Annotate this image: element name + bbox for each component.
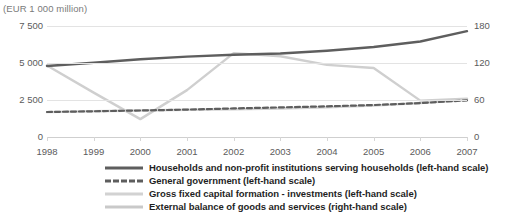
plot-area bbox=[47, 26, 467, 137]
legend-label: General government (left-hand scale) bbox=[149, 175, 315, 186]
legend-label: Households and non-profit institutions s… bbox=[149, 162, 488, 173]
legend-item[interactable]: Gross fixed capital formation - investme… bbox=[105, 187, 517, 200]
x-axis-tick bbox=[280, 137, 281, 141]
y-axis-left-tick: 2 500 bbox=[19, 94, 43, 105]
x-axis-label: 2005 bbox=[363, 146, 384, 157]
series-line-households bbox=[47, 31, 467, 66]
chart-legend: Households and non-profit institutions s… bbox=[105, 161, 517, 213]
legend-item[interactable]: External balance of goods and services (… bbox=[105, 200, 517, 213]
y-axis-left-tick: 5 000 bbox=[19, 57, 43, 68]
x-axis-tick bbox=[94, 137, 95, 141]
gridline bbox=[47, 63, 467, 64]
gridline bbox=[47, 137, 467, 138]
legend-item[interactable]: General government (left-hand scale) bbox=[105, 174, 517, 187]
figure-subtitle: (EUR 1 000 million) bbox=[3, 3, 87, 14]
gridline bbox=[47, 100, 467, 101]
y-axis-left-tick: 0 bbox=[38, 131, 43, 142]
series-layer bbox=[47, 26, 467, 137]
legend-label: External balance of goods and services (… bbox=[149, 201, 407, 212]
x-axis-tick bbox=[234, 137, 235, 141]
gridline bbox=[47, 26, 467, 27]
x-axis-label: 1998 bbox=[36, 146, 57, 157]
y-axis-right-tick: 120 bbox=[474, 57, 490, 68]
x-axis-label: 2007 bbox=[456, 146, 477, 157]
x-axis-label: 2000 bbox=[130, 146, 151, 157]
legend-item[interactable]: Households and non-profit institutions s… bbox=[105, 161, 517, 174]
y-axis-left-tick: 7 500 bbox=[19, 20, 43, 31]
x-axis-tick bbox=[420, 137, 421, 141]
x-axis-tick bbox=[187, 137, 188, 141]
x-axis-tick bbox=[47, 137, 48, 141]
x-axis-tick bbox=[327, 137, 328, 141]
x-axis-label: 2002 bbox=[223, 146, 244, 157]
y-axis-right-tick: 180 bbox=[474, 20, 490, 31]
x-axis-tick bbox=[374, 137, 375, 141]
x-axis-label: 1999 bbox=[83, 146, 104, 157]
x-axis-label: 2004 bbox=[316, 146, 337, 157]
x-axis-label: 2001 bbox=[176, 146, 197, 157]
x-axis-tick bbox=[140, 137, 141, 141]
legend-swatch-icon bbox=[105, 175, 143, 186]
legend-swatch-icon bbox=[105, 188, 143, 199]
y-axis-right-tick: 60 bbox=[474, 94, 485, 105]
legend-label: Gross fixed capital formation - investme… bbox=[149, 188, 417, 199]
x-axis-label: 2003 bbox=[270, 146, 291, 157]
x-axis-tick bbox=[467, 137, 468, 141]
legend-swatch-icon bbox=[105, 162, 143, 173]
chart-figure: Figure 3: Main GDP components, euro area… bbox=[0, 0, 517, 219]
y-axis-right-tick: 0 bbox=[474, 131, 479, 142]
x-axis-label: 2006 bbox=[410, 146, 431, 157]
legend-swatch-icon bbox=[105, 201, 143, 212]
